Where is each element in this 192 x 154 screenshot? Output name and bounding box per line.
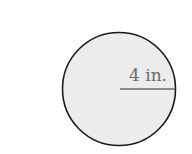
radius-label: 4 in. [129, 65, 167, 85]
circle-diagram: 4 in. [0, 0, 192, 154]
